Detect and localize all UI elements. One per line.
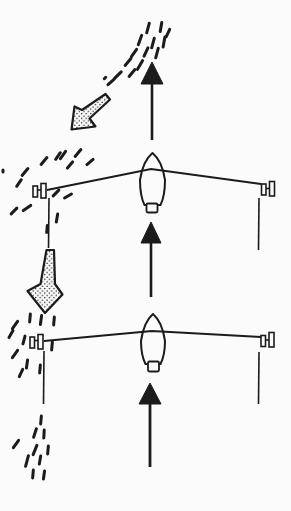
air-dash bbox=[52, 342, 53, 350]
air-dash bbox=[115, 72, 121, 78]
wingtip-marker-bar bbox=[30, 337, 35, 348]
wing-line bbox=[44, 331, 261, 341]
air-dash bbox=[138, 35, 141, 44]
air-dash bbox=[67, 162, 72, 168]
wingtip-drop-line bbox=[259, 198, 260, 250]
air-dash bbox=[147, 23, 150, 33]
air-dash bbox=[156, 48, 159, 58]
air-dash bbox=[43, 471, 44, 479]
air-dash bbox=[12, 350, 17, 357]
air-dash bbox=[33, 445, 37, 454]
glider-thermal-diagram bbox=[0, 0, 291, 511]
arrow-head bbox=[139, 383, 161, 404]
wingtip-marker-bar bbox=[41, 184, 46, 199]
air-dash bbox=[11, 208, 17, 214]
wingtip-drop-line bbox=[49, 198, 50, 248]
wingtip-marker-bar bbox=[262, 184, 267, 195]
air-dash bbox=[65, 194, 72, 198]
air-dash bbox=[163, 37, 165, 47]
tail-block bbox=[148, 362, 159, 372]
air-dash bbox=[39, 456, 40, 464]
air-dash bbox=[125, 59, 131, 66]
wing-line bbox=[47, 169, 261, 190]
gust-arrow-lower-left bbox=[28, 250, 63, 313]
wingtip-marker-bar bbox=[261, 336, 266, 347]
air-dash bbox=[75, 150, 81, 157]
air-dash bbox=[47, 226, 48, 233]
right-wingtip-marker bbox=[262, 182, 275, 197]
air-dash bbox=[40, 365, 41, 373]
air-dash bbox=[12, 321, 17, 328]
air-dash bbox=[56, 214, 57, 222]
air-dash bbox=[144, 48, 148, 56]
air-dash bbox=[131, 49, 136, 56]
updraft-arrow-top bbox=[141, 62, 163, 140]
air-dash bbox=[19, 369, 22, 376]
wingtip-drop-line bbox=[259, 352, 260, 404]
air-dash bbox=[54, 317, 55, 325]
air-dash bbox=[13, 440, 18, 447]
air-dash bbox=[22, 169, 28, 176]
air-dash bbox=[48, 446, 49, 454]
air-dash bbox=[152, 38, 155, 48]
right-wingtip-marker bbox=[261, 333, 274, 348]
air-dash bbox=[23, 205, 30, 210]
air-dash bbox=[26, 360, 27, 368]
air-dash bbox=[166, 29, 169, 36]
left-wingtip-marker bbox=[33, 184, 46, 199]
wingtip-marker-bar bbox=[269, 333, 274, 348]
air-dash bbox=[26, 456, 29, 467]
fuselage-outline bbox=[140, 153, 165, 205]
air-dash bbox=[30, 314, 31, 322]
air-dash bbox=[33, 470, 34, 478]
updraft-arrow-bottom bbox=[139, 383, 161, 467]
air-dash bbox=[138, 61, 143, 70]
air-dash bbox=[34, 429, 37, 438]
arrow-head bbox=[141, 62, 163, 84]
air-dash bbox=[108, 79, 114, 84]
air-dash bbox=[53, 190, 59, 196]
air-dashes-bottom-left bbox=[13, 416, 48, 479]
wingtip-marker-bar bbox=[33, 186, 38, 197]
gust-arrow-upper-left bbox=[72, 94, 111, 130]
wingtip-drop-line bbox=[44, 351, 45, 404]
air-dash bbox=[41, 416, 42, 424]
air-dash bbox=[160, 23, 162, 32]
air-dash bbox=[23, 336, 25, 344]
air-dash bbox=[40, 316, 41, 325]
wingtip-marker-bar bbox=[270, 182, 275, 197]
air-dash bbox=[17, 180, 22, 187]
fuselage-outline bbox=[141, 314, 165, 364]
updraft-arrow-middle bbox=[141, 222, 161, 297]
tail-block bbox=[147, 204, 158, 213]
wingtip-marker-bar bbox=[38, 335, 43, 350]
arrow-head bbox=[141, 222, 161, 243]
air-dashes-top bbox=[104, 23, 169, 85]
air-dash bbox=[129, 70, 135, 77]
left-wingtip-marker bbox=[30, 335, 43, 350]
air-dash bbox=[41, 158, 47, 165]
air-dash bbox=[104, 77, 105, 78]
air-dash bbox=[87, 159, 93, 164]
air-dash bbox=[9, 331, 13, 338]
diagram-page bbox=[0, 0, 291, 511]
